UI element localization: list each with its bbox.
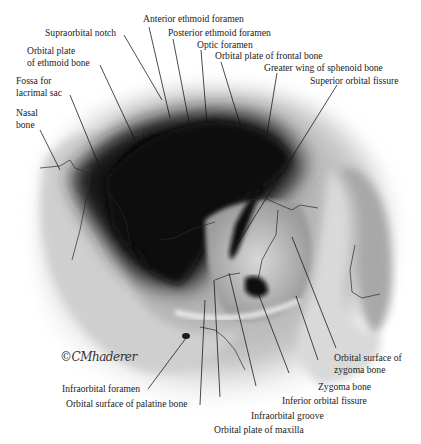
label-zygoma-bone: Zygoma bone (318, 381, 371, 392)
label-nasal-bone-line1: Nasal (16, 107, 38, 118)
label-fossa-lacrimal-line2: lacrimal sac (16, 87, 62, 98)
label-orbital-surface-zygoma-line2: zygoma bone (334, 364, 385, 375)
label-infraorbital-groove: Infraorbital groove (251, 410, 324, 421)
label-orbital-plate-ethmoid-line2: of ethmoid bone (27, 57, 90, 68)
label-posterior-ethmoid-foramen: Posterior ethmoid foramen (168, 27, 271, 38)
artist-signature: ©CMhaderer (60, 350, 137, 364)
label-optic-foramen: Optic foramen (197, 39, 253, 50)
label-inferior-orbital-fissure: Inferior orbital fissure (282, 395, 367, 406)
label-orbital-plate-maxilla: Orbital plate of maxilla (214, 424, 304, 435)
label-greater-wing-sphenoid: Greater wing of sphenoid bone (264, 62, 383, 73)
label-orbital-plate-ethmoid-line1: Orbital plate (27, 45, 75, 56)
label-orbital-surface-palatine: Orbital surface of palatine bone (66, 398, 187, 409)
label-nasal-bone-line2: bone (16, 119, 35, 130)
label-anterior-ethmoid-foramen: Anterior ethmoid foramen (143, 13, 244, 24)
label-orbital-surface-zygoma-line1: Orbital surface of (334, 352, 402, 363)
label-orbital-plate-frontal-bone: Orbital plate of frontal bone (215, 50, 323, 61)
label-fossa-lacrimal-line1: Fossa for (16, 75, 51, 86)
label-supraorbital-notch: Supraorbital notch (45, 27, 116, 38)
label-infraorbital-foramen: Infraorbital foramen (62, 383, 140, 394)
label-superior-orbital-fissure: Superior orbital fissure (310, 75, 398, 86)
